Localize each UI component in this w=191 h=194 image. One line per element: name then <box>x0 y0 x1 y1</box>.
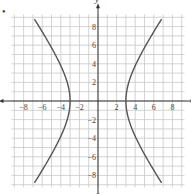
svg-text:−6: −6 <box>38 103 47 112</box>
svg-text:6: 6 <box>92 41 96 50</box>
svg-text:−8: −8 <box>87 171 96 180</box>
svg-text:−2: −2 <box>87 116 96 125</box>
svg-text:2: 2 <box>92 78 96 87</box>
svg-text:−4: −4 <box>87 134 96 143</box>
svg-text:−4: −4 <box>57 103 66 112</box>
hyperbola-chart: xy −8−6−4−224688642−2−4−6−8 <box>0 0 191 194</box>
svg-text:4: 4 <box>92 60 96 69</box>
svg-text:−2: −2 <box>75 103 84 112</box>
svg-text:−6: −6 <box>87 153 96 162</box>
svg-text:8: 8 <box>170 103 174 112</box>
svg-text:−8: −8 <box>19 103 28 112</box>
svg-text:4: 4 <box>133 103 137 112</box>
svg-text:y: y <box>94 0 99 4</box>
svg-text:2: 2 <box>115 103 119 112</box>
svg-text:6: 6 <box>152 103 156 112</box>
svg-text:8: 8 <box>92 23 96 32</box>
